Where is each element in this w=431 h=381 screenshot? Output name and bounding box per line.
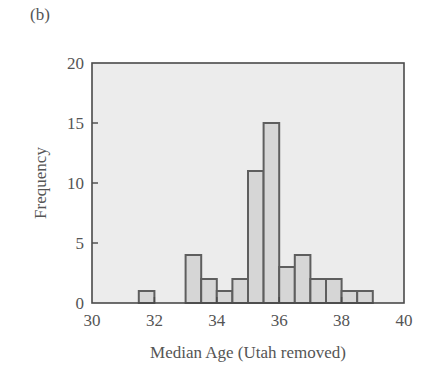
x-tick-label: 34 xyxy=(208,311,226,330)
histogram-chart: 05101520 303234363840 Median Age (Utah r… xyxy=(0,0,431,381)
histogram-bar xyxy=(342,291,358,303)
x-tick-label: 36 xyxy=(271,311,288,330)
histogram-bar xyxy=(217,291,233,303)
histogram-bar xyxy=(295,255,311,303)
histogram-bar xyxy=(201,279,217,303)
histogram-bar xyxy=(139,291,155,303)
y-tick-label: 15 xyxy=(67,114,84,133)
x-tick-label: 40 xyxy=(396,311,413,330)
histogram-bar xyxy=(357,291,373,303)
x-tick-label: 30 xyxy=(84,311,101,330)
histogram-bar xyxy=(232,279,248,303)
y-tick-label: 20 xyxy=(67,54,84,73)
x-tick-label: 38 xyxy=(333,311,350,330)
y-tick-label: 5 xyxy=(76,234,85,253)
histogram-bar xyxy=(326,279,342,303)
x-axis-title: Median Age (Utah removed) xyxy=(150,343,346,362)
x-tick-label: 32 xyxy=(146,311,163,330)
y-axis-title: Frequency xyxy=(31,147,50,219)
histogram-bar xyxy=(279,267,295,303)
histogram-bar xyxy=(310,279,326,303)
y-tick-label: 10 xyxy=(67,174,84,193)
histogram-bar xyxy=(186,255,202,303)
histogram-bar xyxy=(264,123,280,303)
histogram-bar xyxy=(248,171,264,303)
